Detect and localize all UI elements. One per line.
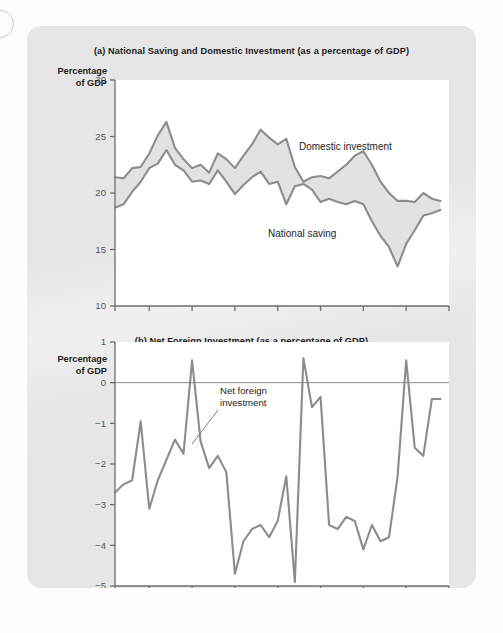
y-tick-label: −2: [95, 458, 106, 469]
y-tick-label: −1: [95, 418, 106, 429]
y-tick-label: 20: [95, 187, 106, 198]
national-saving-label: National saving: [268, 228, 336, 239]
y-tick-label: −3: [95, 499, 106, 510]
decorative-corner-arc: [0, 10, 14, 38]
y-tick-label: −4: [95, 540, 107, 551]
net-foreign-investment-annotation-line2: investment: [220, 397, 267, 408]
domestic-investment-label: Domestic investment: [299, 141, 392, 152]
y-tick-label: 0: [101, 377, 106, 388]
y-tick-label: 30: [95, 74, 106, 85]
y-tick-label: 15: [95, 244, 106, 255]
y-tick-label: −5: [95, 580, 106, 588]
net-foreign-investment-annotation-line1: Net foreign: [220, 385, 267, 396]
chart-b-plot: 10−1−2−3−4−51961196519701975198019851990…: [27, 298, 476, 588]
y-tick-label: 1: [101, 336, 106, 347]
chart-a-plot: 1015202530196119651970197519801985199019…: [27, 26, 476, 316]
figure-panel: (a) National Saving and Domestic Investm…: [27, 26, 476, 588]
y-tick-label: 25: [95, 131, 106, 142]
